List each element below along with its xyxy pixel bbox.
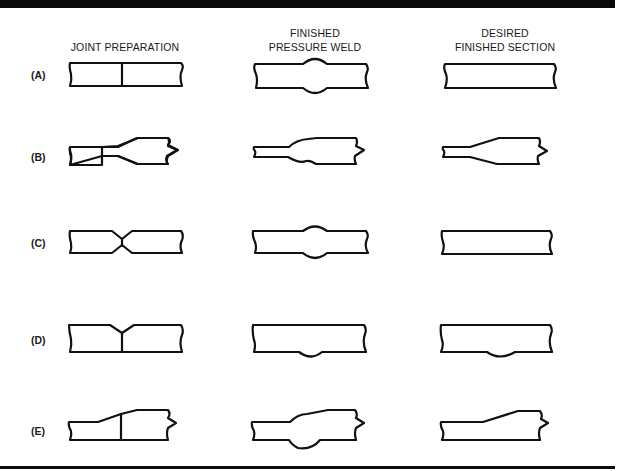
row-a-finished-weld (254, 59, 368, 93)
row-e-desired-section (441, 411, 548, 440)
row-d-joint-preparation (69, 325, 183, 352)
row-c-desired-section (442, 231, 552, 254)
row-c-joint-preparation (70, 231, 183, 253)
bottom-border-rule (0, 466, 615, 469)
row-a-desired-section (444, 64, 556, 88)
row-c-finished-weld (253, 227, 368, 259)
row-e-finished-weld (252, 410, 364, 448)
row-b-finished-weld (254, 138, 364, 164)
row-b-desired-section (443, 138, 547, 164)
row-e-joint-preparation (69, 410, 176, 440)
row-d-finished-weld (253, 325, 366, 357)
row-a-joint-preparation (70, 63, 183, 86)
weld-diagram (0, 0, 621, 471)
row-b-joint-preparation (70, 138, 178, 165)
row-d-desired-section (441, 325, 552, 357)
